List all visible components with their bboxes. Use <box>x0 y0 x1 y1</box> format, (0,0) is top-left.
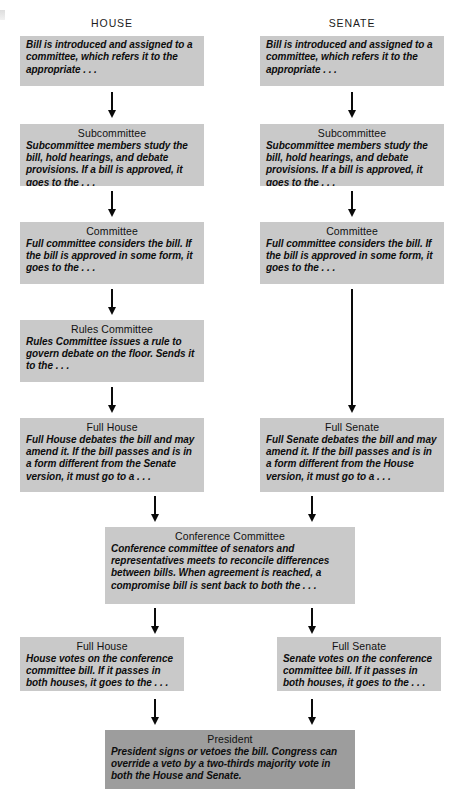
node-full-house-debate-body: Full House debates the bill and may amen… <box>26 434 198 484</box>
node-senate-committee-title: Committee <box>266 225 438 238</box>
node-conference-committee[interactable]: Conference Committee Conference committe… <box>105 527 355 604</box>
node-full-senate-vote[interactable]: Full Senate Senate votes on the conferen… <box>277 637 441 691</box>
node-full-house-debate[interactable]: Full House Full House debates the bill a… <box>20 418 204 492</box>
node-full-house-vote[interactable]: Full House House votes on the conference… <box>20 637 184 691</box>
page-edge-artifact <box>0 10 5 20</box>
node-full-house-debate-title: Full House <box>26 421 198 434</box>
node-full-house-vote-title: Full House <box>26 640 178 653</box>
node-president-title: President <box>111 733 349 746</box>
node-senate-subcommittee[interactable]: Subcommittee Subcommittee members study … <box>260 124 444 186</box>
node-full-senate-vote-title: Full Senate <box>283 640 435 653</box>
node-president-body: President signs or vetoes the bill. Cong… <box>111 746 349 783</box>
flowchart-diagram: HOUSE SENATE Bill is introduced and assi… <box>0 0 460 789</box>
node-senate-committee[interactable]: Committee Full committee considers the b… <box>260 222 444 284</box>
node-president[interactable]: President President signs or vetoes the … <box>105 730 355 789</box>
node-rules-committee[interactable]: Rules Committee Rules Committee issues a… <box>20 320 204 382</box>
column-header-senate: SENATE <box>260 17 444 29</box>
node-senate-intro[interactable]: Bill is introduced and assigned to a com… <box>260 36 444 86</box>
node-house-committee[interactable]: Committee Full committee considers the b… <box>20 222 204 284</box>
node-senate-subcommittee-body: Subcommittee members study the bill, hol… <box>266 140 438 187</box>
node-rules-committee-body: Rules Committee issues a rule to govern … <box>26 336 198 373</box>
node-rules-committee-title: Rules Committee <box>26 323 198 336</box>
node-full-senate-debate-title: Full Senate <box>266 421 438 434</box>
node-conference-committee-body: Conference committee of senators and rep… <box>111 543 349 593</box>
node-house-intro-body: Bill is introduced and assigned to a com… <box>26 39 198 76</box>
node-full-house-vote-body: House votes on the conference committee … <box>26 653 178 690</box>
node-house-subcommittee-title: Subcommittee <box>26 127 198 140</box>
node-full-senate-debate[interactable]: Full Senate Full Senate debates the bill… <box>260 418 444 492</box>
node-senate-subcommittee-title: Subcommittee <box>266 127 438 140</box>
node-house-committee-body: Full committee considers the bill. If th… <box>26 238 198 275</box>
node-house-committee-title: Committee <box>26 225 198 238</box>
node-full-senate-debate-body: Full Senate debates the bill and may ame… <box>266 434 438 484</box>
node-house-subcommittee[interactable]: Subcommittee Subcommittee members study … <box>20 124 204 186</box>
node-house-intro[interactable]: Bill is introduced and assigned to a com… <box>20 36 204 86</box>
node-senate-committee-body: Full committee considers the bill. If th… <box>266 238 438 275</box>
node-house-subcommittee-body: Subcommittee members study the bill, hol… <box>26 140 198 187</box>
node-senate-intro-body: Bill is introduced and assigned to a com… <box>266 39 438 76</box>
column-header-house: HOUSE <box>20 17 204 29</box>
node-conference-committee-title: Conference Committee <box>111 530 349 543</box>
node-full-senate-vote-body: Senate votes on the conference committee… <box>283 653 435 690</box>
